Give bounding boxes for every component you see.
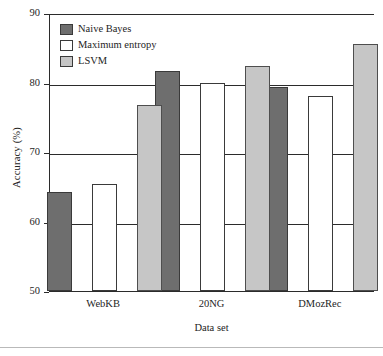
y-axis-tick-label: 80 xyxy=(14,78,40,89)
x-axis-tick-label: WebKB xyxy=(43,298,163,309)
legend-label: Maximum entropy xyxy=(78,40,156,51)
bar xyxy=(353,44,378,291)
y-axis-tick-label: 90 xyxy=(14,8,40,19)
y-axis-tick-mark xyxy=(44,292,49,293)
x-axis-tick-label: DMozRec xyxy=(260,298,380,309)
bar xyxy=(137,105,162,291)
page-separator-rule xyxy=(0,347,383,348)
x-axis-tick-label: 20NG xyxy=(152,298,272,309)
legend-label: Naive Bayes xyxy=(78,24,131,35)
bar xyxy=(47,192,72,291)
legend-label: LSVM xyxy=(78,56,107,67)
legend-swatch xyxy=(60,40,73,51)
y-axis-title: Accuracy (%) xyxy=(11,98,22,218)
x-axis-title: Data set xyxy=(49,322,374,333)
legend-swatch xyxy=(60,24,73,35)
legend-item: LSVM xyxy=(60,54,190,69)
legend-item: Maximum entropy xyxy=(60,38,190,53)
bar xyxy=(92,184,117,291)
bar xyxy=(245,66,270,291)
chart-legend: Naive BayesMaximum entropyLSVM xyxy=(60,22,190,70)
legend-swatch xyxy=(60,56,73,67)
bar xyxy=(200,83,225,291)
y-axis-tick-label: 70 xyxy=(14,147,40,158)
bar xyxy=(308,96,333,291)
legend-item: Naive Bayes xyxy=(60,22,190,37)
y-axis-tick-label: 60 xyxy=(14,217,40,228)
bar-chart-figure: Accuracy (%) 5060708090 WebKB20NGDMozRec… xyxy=(0,0,383,356)
y-axis-tick-label: 50 xyxy=(14,286,40,297)
